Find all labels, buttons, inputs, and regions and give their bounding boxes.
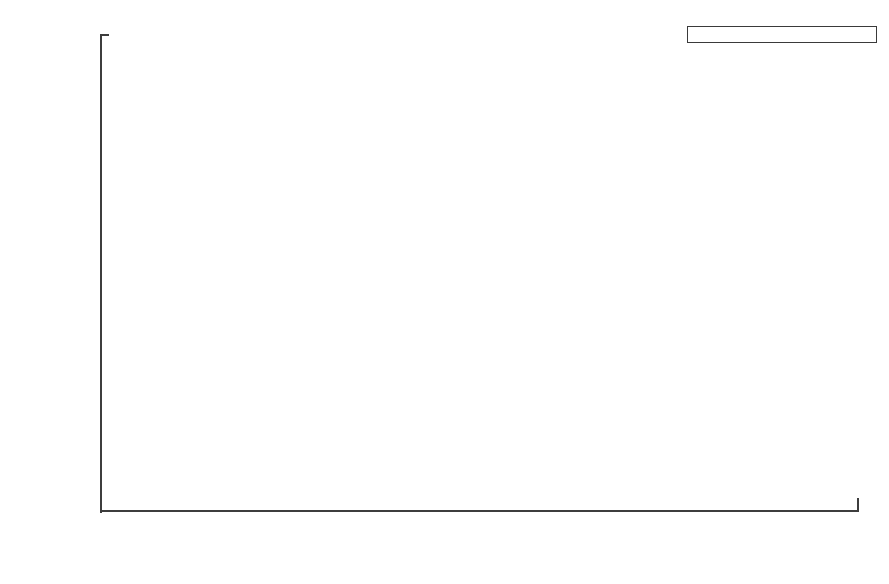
bars-layer	[0, 0, 889, 511]
legend	[687, 26, 877, 43]
bar-chart	[0, 0, 889, 584]
